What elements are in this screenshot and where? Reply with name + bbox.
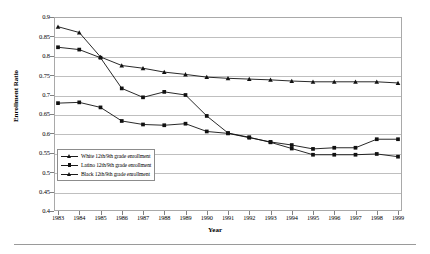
data-point (184, 93, 188, 97)
data-point (77, 48, 81, 52)
x-tick-mark (164, 211, 165, 215)
x-tick-mark (249, 211, 250, 215)
triangle-marker-icon (60, 152, 79, 161)
series-line (58, 27, 398, 83)
data-point (290, 143, 294, 147)
data-point (120, 119, 124, 123)
data-point (332, 146, 336, 150)
x-tick-mark (186, 211, 187, 215)
legend-item: White 12th/9th grade enrollment (60, 152, 151, 161)
data-point (56, 101, 60, 105)
x-tick-mark (313, 211, 314, 215)
x-tick-mark (271, 211, 272, 215)
x-tick-mark (143, 211, 144, 215)
data-point (396, 137, 400, 141)
y-tick-label: 0.9 (10, 13, 50, 20)
data-point (354, 146, 358, 150)
series-line (58, 47, 398, 156)
series-layer (54, 17, 402, 211)
x-tick-mark (377, 211, 378, 215)
x-tick-mark (398, 211, 399, 215)
data-point (354, 153, 358, 157)
x-tick-mark (292, 211, 293, 215)
square-marker-icon (60, 161, 79, 170)
legend-label: Black 12th/9th grade enrollment (81, 170, 150, 179)
data-point (99, 106, 103, 110)
y-tick-label: 0.5 (10, 169, 50, 176)
data-point (332, 153, 336, 157)
data-point (311, 147, 315, 151)
data-point (99, 56, 103, 60)
line-chart: 0.40.450.50.550.60.650.70.750.80.850.9 1… (0, 0, 430, 228)
data-point (184, 122, 188, 126)
x-tick-mark (207, 211, 208, 215)
y-tick-mark (50, 211, 54, 212)
horizontal-rule (14, 244, 416, 245)
data-point (56, 24, 61, 28)
data-point (226, 132, 230, 136)
x-tick-mark (101, 211, 102, 215)
x-tick-mark (356, 211, 357, 215)
data-point (205, 130, 209, 134)
chart-legend: White 12th/9th grade enrollmentLatino 12… (57, 149, 155, 181)
data-point (141, 95, 145, 99)
data-point (77, 101, 81, 105)
y-tick-label: 0.45 (10, 188, 50, 195)
x-tick-mark (79, 211, 80, 215)
data-point (162, 123, 166, 127)
x-tick-mark (122, 211, 123, 215)
x-axis-title: Year (0, 226, 430, 234)
series-1 (56, 24, 401, 85)
data-point (247, 136, 251, 140)
legend-item: Latino 12th/9th grade enrollment (60, 161, 151, 170)
series-2 (56, 45, 400, 158)
data-point (396, 155, 400, 159)
data-point (162, 90, 166, 94)
data-point (311, 153, 315, 157)
data-point (56, 45, 60, 49)
figure: 0.40.450.50.550.60.650.70.750.80.850.9 1… (0, 0, 430, 254)
x-tick-mark (228, 211, 229, 215)
data-point (375, 152, 379, 156)
x-tick-mark (58, 211, 59, 215)
data-point (375, 137, 379, 141)
data-point (141, 123, 145, 127)
legend-label: Latino 12th/9th grade enrollment (81, 161, 151, 170)
data-point (120, 87, 124, 91)
series-line (58, 102, 398, 149)
y-axis-title: Enrollment Ratio (12, 36, 20, 156)
data-point (205, 114, 209, 118)
data-point (290, 147, 294, 151)
x-tick-label: 1999 (383, 214, 413, 222)
triangle-marker-icon (60, 170, 79, 179)
x-tick-mark (334, 211, 335, 215)
legend-item: Black 12th/9th grade enrollment (60, 170, 151, 179)
data-point (269, 140, 273, 144)
series-3 (56, 101, 400, 151)
legend-label: White 12th/9th grade enrollment (81, 152, 150, 161)
